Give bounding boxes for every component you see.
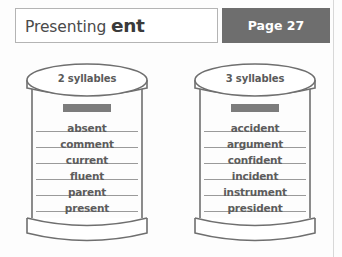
word-label: present	[65, 202, 109, 214]
list-item: current	[36, 148, 138, 164]
redacted-heading-bar	[231, 104, 279, 112]
word-list: accident argument confident incident ins…	[204, 116, 306, 212]
list-item: fluent	[36, 164, 138, 180]
list-item: parent	[36, 180, 138, 196]
list-item: accident	[204, 116, 306, 132]
jar-lid-label: 2 syllables	[22, 73, 152, 84]
page-title-focus-word: ent	[111, 15, 145, 36]
list-item: comment	[36, 132, 138, 148]
list-item: instrument	[204, 180, 306, 196]
worksheet-header: Presenting ent Page 27	[0, 0, 342, 52]
jar-lid-label: 3 syllables	[190, 73, 320, 84]
jar-3-syllables: 3 syllables accident argument confident …	[190, 58, 320, 250]
page-title-prefix: Presenting	[25, 18, 111, 36]
redacted-heading-bar	[63, 104, 111, 112]
page-title: Presenting ent	[25, 15, 145, 36]
jar-2-syllables: 2 syllables absent comment current fluen…	[22, 58, 152, 250]
list-item: incident	[204, 164, 306, 180]
word-label: president	[228, 202, 283, 214]
list-item: absent	[36, 116, 138, 132]
list-item: president	[204, 196, 306, 212]
page-number-label: Page 27	[248, 18, 304, 33]
page-number-badge: Page 27	[222, 8, 330, 43]
worksheet-title-box: Presenting ent	[15, 8, 218, 43]
word-list: absent comment current fluent parent pre…	[36, 116, 138, 212]
list-item: present	[36, 196, 138, 212]
list-item: confident	[204, 148, 306, 164]
list-item: argument	[204, 132, 306, 148]
